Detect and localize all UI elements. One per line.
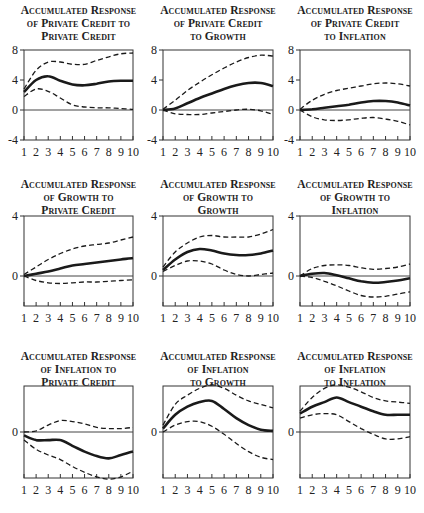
plot-frame [24,50,133,140]
x-tick-label: 10 [127,311,139,325]
x-tick-label: 4 [197,145,203,159]
x-tick-label: 10 [404,483,416,497]
x-tick-label: 4 [57,311,63,325]
response-line [300,101,410,110]
x-tick-label: 2 [172,311,178,325]
x-tick-label: 5 [209,483,215,497]
x-tick-label: 2 [33,483,39,497]
x-tick-label: 3 [45,145,51,159]
x-tick-label: 8 [383,145,389,159]
x-tick-label: 9 [118,145,124,159]
x-tick-label: 10 [267,311,279,325]
plot-area: 12345678910-4048 [147,43,279,159]
x-tick-label: 5 [209,311,215,325]
x-tick-label: 3 [321,483,327,497]
x-tick-label: 9 [258,145,264,159]
lower-band-line [163,421,273,459]
lower-band-line [163,261,273,276]
x-tick-label: 8 [246,483,252,497]
plots-layer: 12345678910-404812345678910-404812345678… [0,0,424,513]
plot-area: 1234567891004 [12,209,139,325]
x-tick-label: 9 [118,483,124,497]
impulse-response-grid: Accumulated Response of Private Credit t… [0,0,424,513]
lower-band-line [24,89,133,110]
x-tick-label: 2 [309,311,315,325]
x-tick-label: 6 [221,145,227,159]
x-tick-label: 1 [160,483,166,497]
x-tick-label: 1 [297,145,303,159]
y-tick-label: -4 [147,133,157,147]
y-tick-label: 0 [288,269,294,283]
x-tick-label: 8 [383,311,389,325]
x-tick-label: 2 [172,483,178,497]
x-tick-label: 2 [33,311,39,325]
plot-frame [300,50,410,140]
x-tick-label: 1 [160,145,166,159]
x-tick-label: 10 [267,483,279,497]
x-tick-label: 9 [258,483,264,497]
lower-band-line [24,440,133,479]
x-tick-label: 6 [82,311,88,325]
x-tick-label: 1 [297,311,303,325]
x-tick-label: 7 [370,311,376,325]
plot-area: 123456789100 [151,385,279,497]
x-tick-label: 9 [118,311,124,325]
upper-band-line [24,53,133,89]
x-tick-label: 10 [127,483,139,497]
y-tick-label: 4 [151,73,157,87]
x-tick-label: 6 [358,311,364,325]
x-tick-label: 7 [233,145,239,159]
response-line [300,273,410,283]
response-line [24,76,133,92]
x-tick-label: 2 [172,145,178,159]
x-tick-label: 6 [358,145,364,159]
y-tick-label: 0 [12,425,18,439]
x-tick-label: 4 [57,145,63,159]
y-tick-label: 4 [12,73,18,87]
plot-frame [300,216,410,306]
x-tick-label: 1 [297,483,303,497]
y-tick-label: 0 [151,425,157,439]
plot-frame [163,50,273,140]
x-tick-label: 9 [395,483,401,497]
y-tick-label: -4 [8,133,18,147]
upper-band-line [24,420,133,432]
x-tick-label: 8 [106,311,112,325]
x-tick-label: 5 [346,483,352,497]
plot-area: 123456789100 [12,386,139,497]
x-tick-label: 8 [246,311,252,325]
x-tick-label: 3 [45,483,51,497]
y-tick-label: 0 [151,103,157,117]
x-tick-label: 1 [21,311,27,325]
x-tick-label: 4 [334,311,340,325]
response-line [24,258,133,276]
y-tick-label: 8 [12,43,18,57]
x-tick-label: 4 [334,145,340,159]
x-tick-label: 7 [233,311,239,325]
upper-band-line [300,83,410,109]
x-tick-label: 4 [334,483,340,497]
x-tick-label: 3 [184,145,190,159]
y-tick-label: 0 [288,425,294,439]
x-tick-label: 3 [321,311,327,325]
response-line [300,398,410,416]
plot-area: 1234567891004 [288,209,416,325]
plot-area: 123456789100 [288,385,416,497]
x-tick-label: 8 [106,145,112,159]
x-tick-label: 3 [184,311,190,325]
plot-frame [163,216,273,306]
x-tick-label: 9 [258,311,264,325]
y-tick-label: 4 [151,209,157,223]
x-tick-label: 5 [69,311,75,325]
x-tick-label: 10 [127,145,139,159]
x-tick-label: 6 [221,483,227,497]
y-tick-label: 4 [288,209,294,223]
x-tick-label: 2 [309,145,315,159]
x-tick-label: 9 [395,311,401,325]
y-tick-label: 8 [288,43,294,57]
y-tick-label: 0 [288,103,294,117]
x-tick-label: 1 [21,145,27,159]
x-tick-label: 1 [21,483,27,497]
upper-band-line [24,237,133,275]
x-tick-label: 6 [221,311,227,325]
